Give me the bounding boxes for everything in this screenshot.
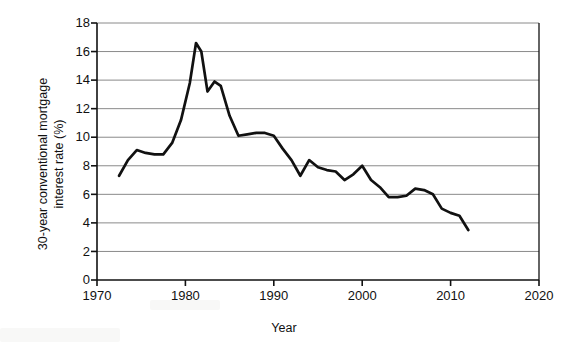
plot-area: [0, 0, 568, 346]
gridlines: [97, 23, 539, 251]
data-series-line: [119, 43, 468, 230]
mortgage-rate-chart: 30-year conventional mortgage interest r…: [0, 0, 568, 346]
